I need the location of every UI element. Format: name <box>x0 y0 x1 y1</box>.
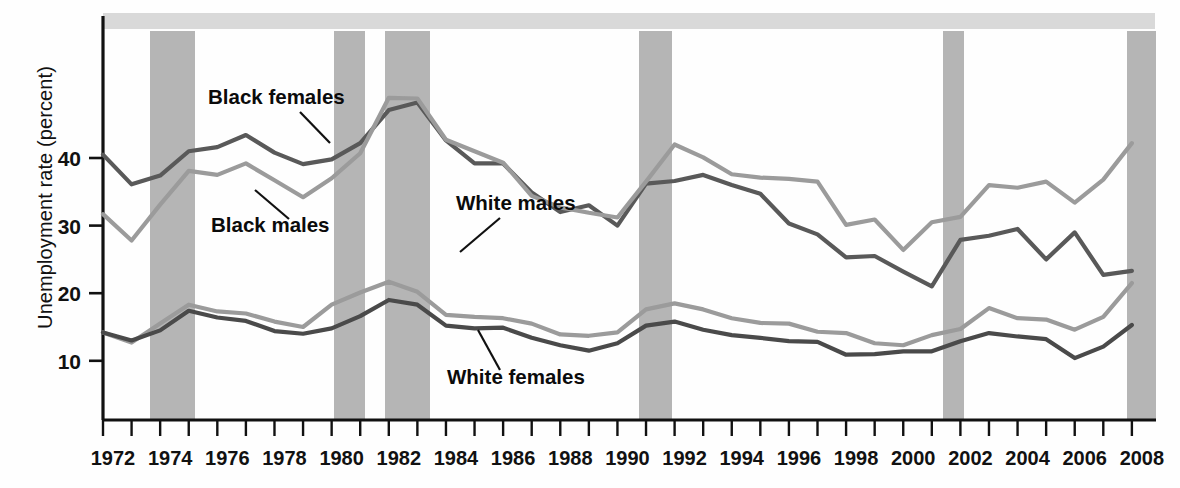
x-tick-label: 1994 <box>720 447 765 469</box>
x-tick-label: 2002 <box>948 447 993 469</box>
x-tick-label: 1988 <box>548 447 593 469</box>
x-tick-label: 1972 <box>91 447 136 469</box>
x-tick-label: 2006 <box>1062 447 1107 469</box>
series-line-black-females <box>103 103 1132 287</box>
series-line-white-females <box>103 300 1132 358</box>
x-tick-label: 1992 <box>662 447 707 469</box>
y-tick-label: 30 <box>58 215 81 238</box>
chart-figure: Unemployment rate (percent) Black female… <box>0 0 1180 488</box>
x-tick-label: 1990 <box>605 447 650 469</box>
chart-canvas: Black femalesBlack malesWhite malesWhite… <box>0 0 1180 488</box>
y-axis-title: Unemployment rate (percent) <box>34 58 57 338</box>
y-tick-label: 40 <box>58 147 81 170</box>
x-tick-label: 1984 <box>434 447 479 469</box>
annotation-label-black-males: Black males <box>211 213 330 236</box>
y-tick-label: 20 <box>58 282 81 305</box>
x-tick-label: 2004 <box>1005 447 1050 469</box>
x-tick-label: 1974 <box>148 447 193 469</box>
x-tick-label: 1980 <box>319 447 364 469</box>
recession-band <box>385 31 430 420</box>
recession-band <box>1127 31 1156 420</box>
x-tick-label: 1976 <box>205 447 250 469</box>
recession-band <box>943 31 964 420</box>
x-tick-label: 1982 <box>377 447 422 469</box>
x-tick-label: 1978 <box>262 447 307 469</box>
x-tick-label: 2000 <box>891 447 936 469</box>
annotation-leader <box>300 112 330 143</box>
y-tick-label: 10 <box>58 350 81 373</box>
annotation-leader <box>460 218 500 252</box>
x-tick-label: 2008 <box>1120 447 1165 469</box>
annotation-leader <box>478 330 500 370</box>
annotation-label-white-females: White females <box>447 365 585 388</box>
x-tick-label: 1996 <box>777 447 822 469</box>
annotation-label-black-females: Black females <box>208 85 345 108</box>
recession-band <box>639 31 672 420</box>
x-tick-label: 1998 <box>834 447 879 469</box>
annotation-label-white-males: White males <box>456 191 576 214</box>
recession-band <box>150 31 195 420</box>
figure-top-strip <box>103 13 1155 29</box>
x-tick-label: 1986 <box>491 447 536 469</box>
